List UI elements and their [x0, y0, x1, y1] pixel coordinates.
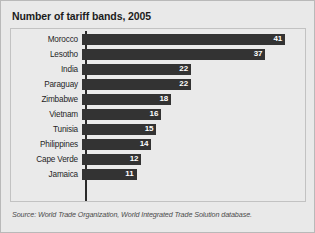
bar-track: 37: [82, 47, 305, 62]
category-label: Morocco: [11, 35, 82, 44]
chart-title: Number of tariff bands, 2005: [12, 10, 151, 22]
bar: 22: [82, 64, 191, 75]
bar-row: Tunisia15: [11, 122, 305, 137]
bar-value-label: 37: [254, 50, 263, 58]
bar-row: Lesotho37: [11, 47, 305, 62]
bar-row: India22: [11, 62, 305, 77]
bar-rows: Morocco41Lesotho37India22Paraguay22Zimba…: [11, 32, 305, 182]
bar-row: Philippines14: [11, 137, 305, 152]
bar-value-label: 41: [273, 35, 282, 43]
bar-value-label: 14: [140, 140, 149, 148]
bar-row: Zimbabwe18: [11, 92, 305, 107]
bar-track: 11: [82, 167, 305, 182]
bar: 18: [82, 94, 171, 105]
bar-row: Paraguay22: [11, 77, 305, 92]
bar: 14: [82, 139, 151, 150]
bar-track: 12: [82, 152, 305, 167]
bar: 22: [82, 79, 191, 90]
bar-track: 22: [82, 77, 305, 92]
bar-track: 41: [82, 32, 305, 47]
bar-value-label: 11: [125, 170, 133, 178]
bar-row: Jamaica11: [11, 167, 305, 182]
bar: 15: [82, 124, 156, 135]
bar-value-label: 22: [179, 65, 188, 73]
source-note: Source: World Trade Organization, World …: [12, 210, 252, 219]
bar-track: 15: [82, 122, 305, 137]
bar: 12: [82, 154, 141, 165]
bar-row: Morocco41: [11, 32, 305, 47]
category-label: Paraguay: [11, 80, 82, 89]
category-label: India: [11, 65, 82, 74]
bar: 37: [82, 49, 265, 60]
chart-figure: Number of tariff bands, 2005 Morocco41Le…: [0, 0, 315, 233]
bar-value-label: 12: [130, 155, 139, 163]
bar: 41: [82, 34, 285, 45]
category-label: Jamaica: [11, 170, 82, 179]
bar-track: 16: [82, 107, 305, 122]
bar-row: Vietnam16: [11, 107, 305, 122]
category-label: Lesotho: [11, 50, 82, 59]
bar-value-label: 22: [179, 80, 188, 88]
bar: 11: [82, 169, 137, 180]
bar-track: 22: [82, 62, 305, 77]
category-label: Cape Verde: [11, 155, 82, 164]
bar-track: 14: [82, 137, 305, 152]
bar-value-label: 18: [159, 95, 168, 103]
category-label: Tunisia: [11, 125, 82, 134]
bar-value-label: 16: [150, 110, 159, 118]
category-label: Vietnam: [11, 110, 82, 119]
bar-row: Cape Verde12: [11, 152, 305, 167]
category-label: Philippines: [11, 140, 82, 149]
plot-panel: Morocco41Lesotho37India22Paraguay22Zimba…: [10, 28, 306, 202]
bar-track: 18: [82, 92, 305, 107]
bar-value-label: 15: [145, 125, 154, 133]
category-label: Zimbabwe: [11, 95, 82, 104]
bar: 16: [82, 109, 161, 120]
